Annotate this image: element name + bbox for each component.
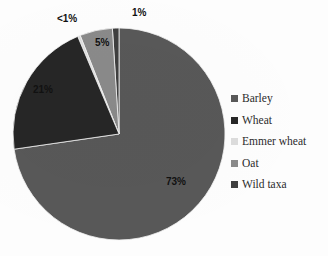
slice-value-label-oat: 5%	[95, 37, 109, 48]
slice-value-label-barley: 73%	[166, 176, 186, 187]
legend-swatch-icon	[231, 95, 238, 102]
legend-item-barley[interactable]: Barley	[231, 88, 326, 110]
legend-item-label: Wild taxa	[242, 179, 287, 191]
chart-legend: BarleyWheatEmmer wheatOatWild taxa	[231, 88, 326, 196]
pie-svg	[12, 27, 226, 241]
legend-item-wild-taxa[interactable]: Wild taxa	[231, 174, 326, 196]
slice-value-label-wild-taxa: 1%	[132, 7, 146, 18]
legend-swatch-icon	[231, 181, 238, 188]
slice-value-label-wheat: 21%	[33, 84, 53, 95]
legend-item-label: Barley	[242, 93, 273, 105]
legend-swatch-icon	[231, 117, 238, 124]
legend-item-label: Wheat	[242, 115, 272, 127]
slice-value-label-emmer-wheat: <1%	[57, 13, 77, 24]
pie-slice-group	[13, 28, 225, 240]
legend-item-label: Oat	[242, 158, 259, 170]
pie-plot-area	[12, 27, 226, 241]
legend-swatch-icon	[231, 160, 238, 167]
pie-chart-figure: 73% 21% 5% <1% 1% BarleyWheatEmmer wheat…	[0, 0, 328, 256]
legend-item-wheat[interactable]: Wheat	[231, 110, 326, 132]
legend-item-label: Emmer wheat	[242, 136, 306, 148]
legend-swatch-icon	[231, 138, 238, 145]
legend-item-emmer-wheat[interactable]: Emmer wheat	[231, 131, 326, 153]
legend-item-oat[interactable]: Oat	[231, 153, 326, 175]
